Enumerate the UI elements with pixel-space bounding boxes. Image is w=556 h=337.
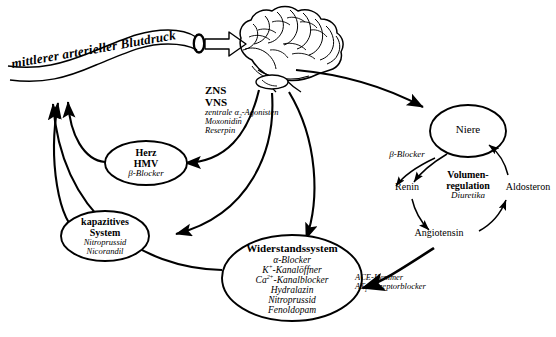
brain-caption-zns: ZNS (205, 85, 325, 97)
kapazitives-drug-1: Nicorandil (60, 247, 150, 256)
arrow-renin-to-angiotensin (412, 199, 429, 230)
brain-illustration (240, 7, 343, 93)
diagram-canvas: mittlerer arterieller Blutdruck ZNS VNS … (0, 0, 556, 337)
brain-drug-2: Reserpin (205, 126, 325, 135)
widerstand-drug-0: α-Blocker (217, 255, 367, 265)
niere-title: Niere (438, 124, 498, 136)
herz-drug-0: β-Blocker (106, 169, 186, 179)
beta-blocker-niere-label: β-Blocker (378, 150, 436, 160)
at1-blocker-label: AT1-Rezeptorblocker (355, 282, 465, 291)
widerstand-drug-5: Fenoldopam (217, 305, 367, 315)
kapazitives-title: kapazitives (60, 217, 150, 228)
volumen-drug-0: Diuretika (432, 191, 504, 201)
cycle-aldosteron-label: Aldosteron (500, 182, 556, 193)
cycle-renin-label: Renin (380, 182, 434, 193)
widerstand-title: Widerstandssystem (217, 243, 367, 255)
widerstand-drug-4: Nitroprussid (217, 295, 367, 305)
arrow-angiotensin-to-aldosteron (479, 200, 506, 231)
widerstand-drug-2: Ca2+-Kanalblocker (217, 275, 367, 285)
volumen-title: Volumen- (432, 170, 504, 181)
arc-herz-to-bp (68, 102, 105, 162)
herz-title: Herz (106, 148, 186, 159)
widerstand-drug-1: K+-Kanalöffner (217, 265, 367, 275)
cycle-angiotensin-label: Angiotensin (400, 228, 478, 239)
widerstand-drug-3: Hydralazin (217, 285, 367, 295)
